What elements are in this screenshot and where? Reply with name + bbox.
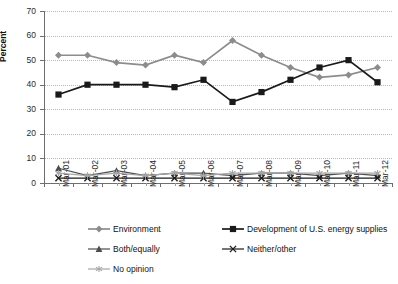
data-point-diamond — [96, 226, 103, 233]
legend-item[interactable]: Neither/other — [222, 244, 296, 254]
x-axis-tick-mark — [276, 183, 277, 187]
gridline — [44, 134, 392, 135]
legend-label: Development of U.S. energy supplies — [247, 225, 387, 234]
y-axis-title: Percent — [0, 31, 8, 62]
x-axis-minor-tick-mark — [59, 183, 60, 186]
x-axis-tick-label: Mar-04 — [149, 160, 158, 187]
x-axis-tick-label: Mar-09 — [294, 160, 303, 187]
gridline — [44, 85, 392, 86]
y-axis-tick-label: 30 — [8, 105, 36, 114]
y-axis-tick-label: 0 — [8, 179, 36, 188]
chart-legend: EnvironmentDevelopment of U.S. energy su… — [0, 224, 398, 284]
x-axis-tick-mark — [44, 183, 45, 187]
x-axis-minor-tick-mark — [175, 183, 176, 186]
plot-area — [44, 11, 392, 183]
x-axis-tick-mark — [73, 183, 74, 187]
x-axis-tick-label: Mar-07 — [236, 160, 245, 187]
legend-marker-diamond-icon — [88, 224, 110, 234]
legend-item[interactable]: No opinion — [88, 264, 154, 274]
x-axis-minor-tick-mark — [204, 183, 205, 186]
x-axis-minor-tick-mark — [349, 183, 350, 186]
x-axis-tick-mark — [392, 183, 393, 187]
x-axis-minor-tick-mark — [146, 183, 147, 186]
x-axis-tick-mark — [363, 183, 364, 187]
legend-marker-triangle-icon — [88, 244, 110, 254]
x-axis-tick-mark — [160, 183, 161, 187]
x-axis-minor-tick-mark — [233, 183, 234, 186]
y-axis-tick-label: 50 — [8, 56, 36, 65]
y-axis-tick-label: 40 — [8, 80, 36, 89]
x-axis-minor-tick-mark — [320, 183, 321, 186]
gridline — [44, 11, 392, 12]
x-axis-tick-label: Mar-12 — [381, 160, 390, 187]
x-axis-minor-tick-mark — [117, 183, 118, 186]
x-axis-tick-mark — [102, 183, 103, 187]
x-axis-tick-label: Mar-02 — [91, 160, 100, 187]
x-axis-tick-label: Mar-01 — [62, 160, 71, 187]
y-axis-tick-label: 70 — [8, 7, 36, 16]
legend-label: No opinion — [113, 265, 154, 274]
x-axis-tick-mark — [131, 183, 132, 187]
x-axis-tick-mark — [247, 183, 248, 187]
x-axis-minor-tick-mark — [378, 183, 379, 186]
y-axis-line — [44, 11, 45, 183]
y-axis-tick-label: 10 — [8, 154, 36, 163]
x-axis-tick-label: Mar-08 — [265, 160, 274, 187]
legend-item[interactable]: Environment — [88, 224, 161, 234]
x-axis-tick-mark — [189, 183, 190, 187]
data-point-square — [230, 226, 236, 232]
legend-marker-square-icon — [222, 224, 244, 234]
x-axis-tick-label: Mar-10 — [323, 160, 332, 187]
x-axis-tick-label: Mar-03 — [120, 160, 129, 187]
x-axis-minor-tick-mark — [262, 183, 263, 186]
legend-marker-x-icon — [222, 244, 244, 254]
x-axis-tick-mark — [334, 183, 335, 187]
legend-label: Environment — [113, 225, 161, 234]
x-axis-minor-tick-mark — [291, 183, 292, 186]
y-axis-tick-label: 20 — [8, 129, 36, 138]
chart-figure: Percent 010203040506070 Mar-01Mar-02Mar-… — [0, 0, 398, 284]
legend-marker-asterisk-icon — [88, 264, 110, 274]
legend-item[interactable]: Development of U.S. energy supplies — [222, 224, 387, 234]
x-axis-minor-tick-mark — [88, 183, 89, 186]
x-axis-tick-label: Mar-06 — [207, 160, 216, 187]
x-axis-tick-mark — [305, 183, 306, 187]
x-axis-tick-mark — [218, 183, 219, 187]
y-axis-tick-label: 60 — [8, 31, 36, 40]
legend-label: Both/equally — [113, 245, 160, 254]
gridline — [44, 109, 392, 110]
legend-item[interactable]: Both/equally — [88, 244, 160, 254]
legend-label: Neither/other — [247, 245, 296, 254]
x-axis-tick-label: Mar-05 — [178, 160, 187, 187]
gridline — [44, 36, 392, 37]
gridline — [44, 60, 392, 61]
x-axis-tick-label: Mar-11 — [352, 161, 361, 187]
